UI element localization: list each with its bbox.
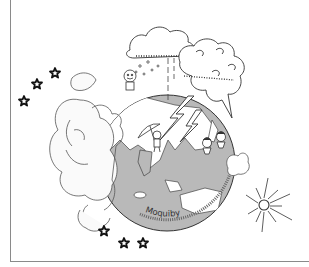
storm-cloud-left: [50, 73, 123, 231]
rain-drops: [135, 58, 174, 100]
star-icon: [50, 68, 60, 78]
earth-illustration: Moquiby: [0, 0, 309, 267]
character-astronaut: [124, 70, 136, 90]
star-icon: [32, 79, 42, 89]
sun-icon: [246, 178, 292, 232]
star-icon: [138, 238, 148, 248]
star-icon: [119, 238, 129, 248]
small-cloud-right: [227, 153, 250, 175]
star-icon: [19, 96, 29, 106]
